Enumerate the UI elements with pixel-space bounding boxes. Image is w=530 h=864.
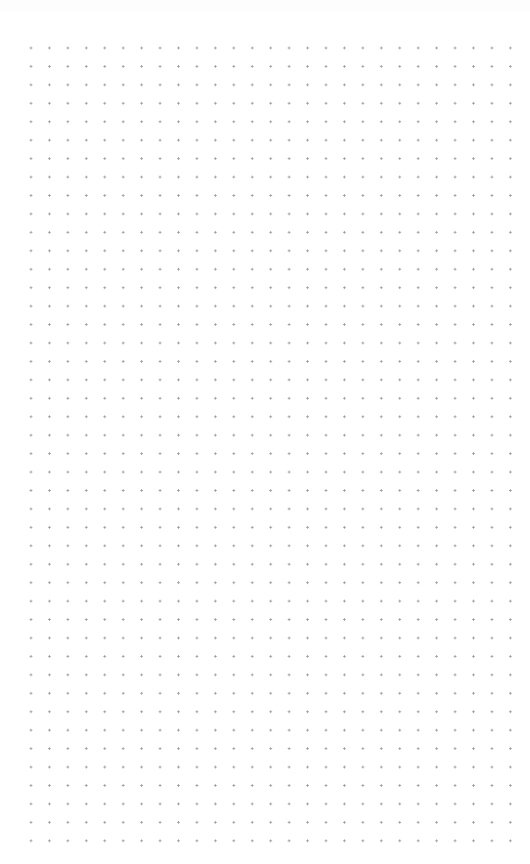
top-edge-strip — [0, 0, 530, 12]
dot-grid-canvas[interactable] — [0, 0, 530, 864]
